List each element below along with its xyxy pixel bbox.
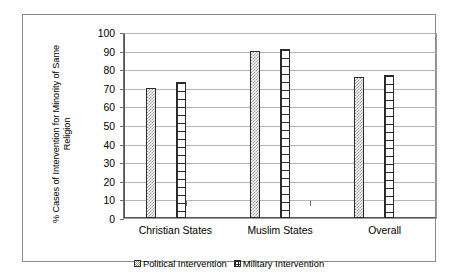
- bar-group: [228, 34, 332, 218]
- y-axis-tick-label: 50: [103, 121, 115, 132]
- chart-legend: Political InterventionMilitary Intervent…: [23, 258, 435, 269]
- y-axis-tick-label: 60: [103, 102, 115, 113]
- y-axis-title: % Cases of Intervention for Minority of …: [49, 29, 75, 239]
- plot-area: [123, 33, 437, 219]
- y-axis-tick-label: 70: [103, 83, 115, 94]
- x-axis-category-label: Muslim States: [228, 225, 333, 236]
- y-axis-tick-label: 40: [103, 139, 115, 150]
- category-separator: [186, 201, 187, 206]
- bar-group: [124, 34, 228, 218]
- bar[interactable]: [176, 82, 186, 218]
- bar[interactable]: [384, 75, 394, 218]
- y-axis-tick-label: 80: [103, 65, 115, 76]
- legend-entry[interactable]: Political Intervention: [134, 258, 227, 269]
- chart-frame: % Cases of Intervention for Minority of …: [22, 14, 436, 262]
- x-axis-category-label: Overall: [332, 225, 437, 236]
- legend-label: Military Intervention: [243, 258, 324, 269]
- bar-group: [332, 34, 436, 218]
- legend-entry[interactable]: Military Intervention: [234, 258, 324, 269]
- bar[interactable]: [250, 51, 260, 218]
- legend-swatch-icon: [234, 260, 241, 267]
- y-axis-tick-label: 20: [103, 176, 115, 187]
- bar[interactable]: [280, 49, 290, 218]
- category-separator: [310, 201, 311, 206]
- y-axis-tick-label: 0: [109, 214, 115, 225]
- y-axis-tick-label: 90: [103, 46, 115, 57]
- legend-swatch-icon: [134, 260, 141, 267]
- x-axis-category-label: Christian States: [123, 225, 228, 236]
- y-axis-tick-label: 100: [98, 28, 115, 39]
- bars-layer: [124, 34, 436, 218]
- y-axis-tick-mark: [120, 219, 124, 220]
- y-axis-tick-label: 30: [103, 158, 115, 169]
- bar[interactable]: [354, 77, 364, 218]
- legend-label: Political Intervention: [143, 258, 227, 269]
- y-axis-tick-labels: 0102030405060708090100: [85, 33, 115, 219]
- x-axis-category-labels: Christian StatesMuslim StatesOverall: [123, 225, 437, 236]
- plot-wrap: 0102030405060708090100: [85, 33, 437, 219]
- category-separators: [61, 201, 435, 206]
- bar[interactable]: [146, 88, 156, 218]
